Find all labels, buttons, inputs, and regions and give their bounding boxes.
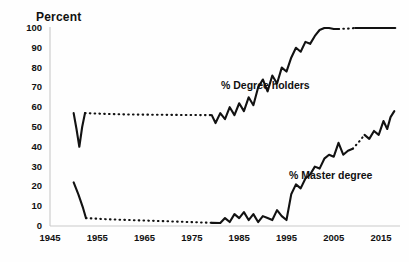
series-degree-holders-segment-2 [212,28,339,123]
series-master-degree-segment-4 [365,111,395,139]
series-degree-holders-segment-0 [74,113,85,147]
series-master-degree-segment-0 [74,182,86,218]
series-label-degree-holders: % Degree holders [221,79,310,91]
plot-area [0,0,409,262]
series-master-degree-segment-2 [212,143,353,223]
series-master-degree-segment-1 [86,218,212,223]
chart-container: Percent 1009080706050403020100 194519551… [0,0,409,262]
series-degree-holders-segment-3 [339,28,356,29]
series-master-degree-segment-3 [353,135,365,149]
series-degree-holders-segment-1 [85,113,212,115]
data-series-layer [74,28,396,223]
series-label-master-degree: % Master degree [289,169,372,181]
